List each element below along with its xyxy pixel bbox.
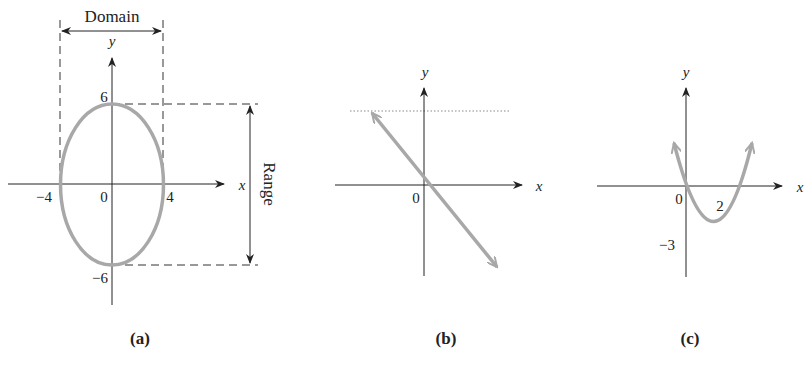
caption-b: (b) [436, 329, 457, 348]
origin-label: 0 [100, 189, 108, 205]
tick-y-pos: 6 [100, 89, 108, 105]
origin-label: 0 [675, 191, 683, 207]
tick-y-neg: −3 [659, 237, 675, 253]
panel-b: x y 0 (b) [335, 64, 543, 348]
tick-y-neg: −6 [92, 270, 108, 286]
range-label: Range [260, 162, 279, 205]
panel-c: x y 0 2 −3 (c) [597, 64, 804, 348]
y-axis-label: y [107, 33, 116, 49]
tick-x-pos: 4 [166, 189, 174, 205]
linear-curve [372, 113, 497, 267]
x-axis-label: x [238, 177, 246, 193]
x-axis-label: x [796, 179, 804, 195]
y-axis-label: y [420, 64, 429, 80]
tick-x-neg: −4 [36, 189, 52, 205]
origin-label: 0 [412, 190, 420, 206]
figure-canvas: Domain Range x y −4 0 4 6 −6 (a) x y 0 (… [0, 0, 812, 372]
domain-label: Domain [85, 7, 140, 26]
y-axis-label: y [681, 64, 690, 80]
x-axis-label: x [535, 178, 543, 194]
panel-a: Domain Range x y −4 0 4 6 −6 (a) [8, 7, 279, 348]
tick-x-pos: 2 [716, 198, 724, 214]
caption-a: (a) [130, 329, 150, 348]
caption-c: (c) [681, 329, 700, 348]
